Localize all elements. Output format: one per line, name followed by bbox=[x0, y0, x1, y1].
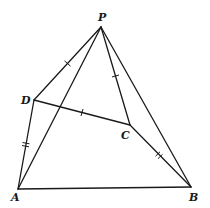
edge-PB bbox=[101, 27, 191, 187]
edge-AB bbox=[18, 187, 191, 189]
vertex-label-C: C bbox=[121, 129, 130, 142]
geometry-diagram: P D C A B bbox=[0, 0, 210, 208]
edge-PA bbox=[18, 27, 101, 189]
vertex-label-D: D bbox=[20, 94, 31, 107]
vertex-label-A: A bbox=[10, 191, 20, 204]
edge-DA bbox=[18, 100, 34, 189]
pyramid-figure: P D C A B bbox=[0, 0, 210, 208]
vertex-label-P: P bbox=[97, 11, 107, 24]
vertex-label-B: B bbox=[188, 191, 198, 204]
